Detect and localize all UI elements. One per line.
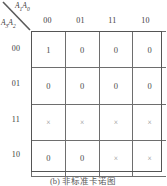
kmap-cell-r3c2: × — [99, 140, 133, 176]
column-header-2: 11 — [96, 17, 129, 25]
kmap-cell-r1c1: 0 — [65, 68, 99, 104]
row-header-3: 10 — [3, 151, 29, 159]
table-row: 0 0 0 0 — [32, 68, 167, 104]
column-header-0: 00 — [31, 17, 64, 25]
kmap-grid: 1 0 0 0 0 0 0 0 × × × × 0 — [31, 31, 162, 172]
kmap-cell-r2c3: × — [133, 104, 166, 140]
kmap-cell-r2c2: × — [99, 104, 133, 140]
table-row: 1 0 0 0 — [32, 32, 167, 68]
row-variable-label: A3A2 — [1, 19, 16, 29]
kmap-cell-r0c0: 1 — [32, 32, 66, 68]
kmap-cell-r2c0: × — [32, 104, 66, 140]
column-header-1: 01 — [64, 17, 97, 25]
kmap-cell-r3c1: 0 — [65, 140, 99, 176]
table-row: 0 0 × × — [32, 140, 167, 176]
kmap-cell-r0c3: 0 — [133, 32, 166, 68]
kmap-cell-r3c3: × — [133, 140, 166, 176]
row-header-1: 01 — [3, 80, 29, 88]
kmap-corner-header: A1A0 A3A2 — [1, 1, 31, 31]
kmap-cell-r2c1: × — [65, 104, 99, 140]
kmap-cell-r1c3: 0 — [133, 68, 166, 104]
row-header-2: 11 — [3, 116, 29, 124]
column-variable-label: A1A0 — [15, 2, 30, 12]
karnaugh-map-figure: A1A0 A3A2 00 01 11 10 00 01 11 10 1 0 0 … — [0, 0, 166, 186]
kmap-cell-r0c2: 0 — [99, 32, 133, 68]
table-row: × × × × — [32, 104, 167, 140]
row-header-0: 00 — [3, 45, 29, 53]
kmap-cell-r3c0: 0 — [32, 140, 66, 176]
kmap-cell-r1c0: 0 — [32, 68, 66, 104]
column-header-3: 10 — [129, 17, 162, 25]
figure-caption: (b) 非标准卡诺图 — [0, 176, 166, 186]
kmap-cell-r0c1: 0 — [65, 32, 99, 68]
kmap-cell-r1c2: 0 — [99, 68, 133, 104]
